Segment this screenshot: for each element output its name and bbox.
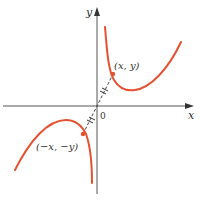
odd-function-graph: y x 0 (x, y) (−x, −y) [0, 0, 200, 200]
point-neg-x-neg-y-label: (−x, −y) [36, 141, 78, 152]
curve-upper-branch [105, 27, 181, 90]
y-axis-arrow-icon [94, 7, 100, 16]
point-x-y-label: (x, y) [114, 60, 140, 71]
axes [3, 7, 194, 194]
origin-label: 0 [100, 111, 106, 121]
point-x-y [111, 72, 115, 76]
y-axis-label: y [85, 6, 93, 19]
x-axis-label: x [188, 109, 195, 122]
point-neg-x-neg-y [81, 132, 85, 136]
symmetry-dashed-line [83, 74, 113, 134]
